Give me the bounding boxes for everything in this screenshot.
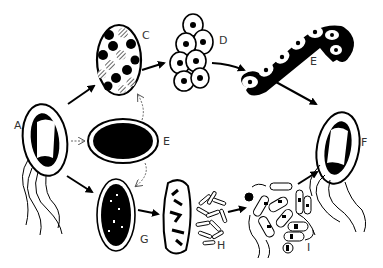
arrow-d-to-e [212,63,244,70]
arrow-i-to-f [298,172,317,184]
label-a: A [14,120,22,131]
arrow-a-to-c [68,86,94,104]
label-f: F [361,137,367,148]
arrow-c-to-d [142,63,164,70]
stage-e-chain [242,26,348,96]
stage-i-mass [245,183,315,258]
flagellum [46,175,60,228]
flagellum [345,182,366,232]
label-c: C [142,30,150,41]
stage-b-resting-oval [88,119,158,163]
label-b: E [163,136,170,147]
label-g: G [140,234,149,245]
label-d: D [219,35,227,46]
flagellum [22,160,28,225]
label-e: E [310,56,317,67]
arrow-b-to-c [138,95,143,120]
arrow-g-to-h [138,210,158,214]
life-cycle-diagram [0,0,383,268]
stage-d-cluster [170,14,213,91]
flagellum [36,172,62,234]
arrow-b-to-g [136,163,146,186]
label-i: I [307,242,310,253]
stage-f-cell [310,109,366,232]
stage-c-body [97,25,141,95]
arrow-h-to-i [228,208,245,212]
flagellum [27,168,41,235]
arrow-e-to-f [276,82,316,104]
label-h: H [217,240,225,251]
arrow-a-to-g [67,176,92,192]
stage-a-cell [18,101,72,235]
rod-bodies [196,191,228,245]
stage-g-body [97,179,135,251]
flagellum [329,180,356,232]
